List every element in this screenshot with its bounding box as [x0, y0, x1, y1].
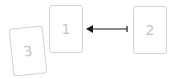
card-2-label: 2	[146, 22, 155, 38]
card-3[interactable]: 3	[9, 25, 48, 76]
card-1-label: 1	[62, 21, 71, 37]
arrow-left-icon	[85, 22, 130, 36]
card-3-label: 3	[23, 43, 34, 60]
card-1[interactable]: 1	[49, 5, 83, 53]
card-2[interactable]: 2	[133, 6, 167, 54]
